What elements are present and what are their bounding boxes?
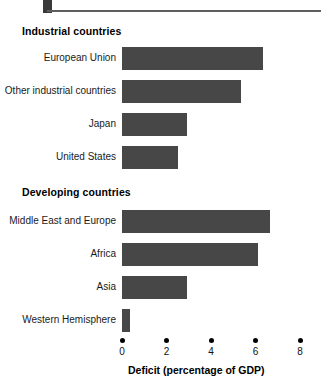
x-axis-tick-dot	[164, 338, 169, 343]
x-axis-tick-label: 0	[112, 346, 132, 357]
top-decoration	[0, 0, 326, 16]
bar-row: Asia	[0, 276, 326, 299]
x-axis-tick-label: 6	[246, 346, 266, 357]
bar-africa	[122, 243, 258, 266]
bar-row: Middle East and Europe	[0, 210, 326, 233]
bar-japan	[122, 113, 187, 136]
category-label: Asia	[0, 281, 116, 292]
bar-european-union	[122, 47, 263, 70]
bar-western-hemisphere	[122, 309, 130, 332]
x-axis-tick-dot	[120, 338, 125, 343]
category-label: Japan	[0, 118, 116, 129]
group-title-developing: Developing countries	[22, 186, 131, 198]
bar-row: Other industrial countries	[0, 80, 326, 103]
x-axis-tick-dot	[209, 338, 214, 343]
x-axis-tick-dot	[298, 338, 303, 343]
horizontal-rule	[47, 10, 321, 12]
bar-row: United States	[0, 146, 326, 169]
category-label: Africa	[0, 248, 116, 259]
category-label: Western Hemisphere	[0, 314, 116, 325]
category-label: United States	[0, 151, 116, 162]
group-title-industrial: Industrial countries	[22, 25, 121, 37]
x-axis-title: Deficit (percentage of GDP)	[128, 364, 265, 376]
category-label: Middle East and Europe	[0, 215, 116, 226]
x-axis-tick-label: 4	[201, 346, 221, 357]
category-label: European Union	[0, 52, 116, 63]
x-axis-tick-dot	[253, 338, 258, 343]
bar-row: Japan	[0, 113, 326, 136]
bar-united-states	[122, 146, 178, 169]
bar-row: Africa	[0, 243, 326, 266]
bar-chart: Industrial countries European Union Othe…	[0, 16, 326, 375]
bar-row: Western Hemisphere	[0, 309, 326, 332]
x-axis-tick-label: 8	[290, 346, 310, 357]
category-label: Other industrial countries	[0, 85, 116, 96]
x-axis-tick-label: 2	[157, 346, 177, 357]
bar-row: European Union	[0, 47, 326, 70]
bar-other-industrial-countries	[122, 80, 241, 103]
bar-asia	[122, 276, 187, 299]
bar-middle-east-and-europe	[122, 210, 270, 233]
